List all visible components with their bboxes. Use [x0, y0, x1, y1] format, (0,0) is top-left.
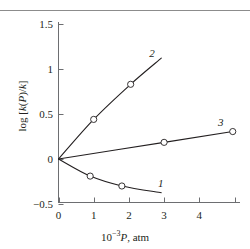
x-axis-title: 10−3P, atm: [0, 228, 250, 243]
data-point-marker: [119, 183, 125, 189]
curve-label-3: 3: [218, 117, 224, 128]
y-axis-title-open: (: [16, 103, 28, 107]
y-axis-title-prefix: log [: [16, 111, 28, 131]
y-tick-label: 1.5: [20, 19, 53, 30]
x-tick-label: 2: [117, 210, 141, 221]
x-axis-title-unit: , atm: [127, 231, 149, 243]
data-point-marker: [230, 128, 236, 134]
y-axis-title-k2: k: [16, 84, 28, 89]
x-tick-label: 0: [47, 210, 71, 221]
curve-3: [59, 132, 233, 159]
x-axis-ticks: [60, 198, 236, 203]
curve-1: [59, 159, 162, 193]
y-axis-title: log [k(P)/k]: [16, 36, 28, 176]
data-point-marker: [128, 81, 134, 87]
data-curves-group: [59, 58, 233, 193]
curve-2: [59, 58, 162, 159]
x-tick-label: 4: [187, 210, 211, 221]
x-tick-label: 3: [152, 210, 176, 221]
y-tick-label: −0.5: [20, 199, 53, 210]
curve-label-1: 1: [158, 178, 164, 189]
y-axis-title-close: )/: [16, 89, 28, 96]
data-point-marker: [87, 173, 93, 179]
figure-container: 1.510.50−0.5 01234 123 10−3P, atm log [k…: [0, 0, 250, 249]
y-axis-title-p: P: [16, 96, 28, 103]
y-axis-ticks: [59, 25, 64, 205]
y-axis-title-suffix: ]: [16, 80, 28, 84]
x-axis-title-prefix: 10: [101, 231, 112, 243]
data-point-marker: [161, 139, 167, 145]
data-point-marker: [91, 116, 97, 122]
y-axis-title-k1: k: [16, 106, 28, 111]
curve-label-2: 2: [149, 48, 155, 59]
data-markers-group: [87, 81, 236, 189]
x-tick-label: 1: [82, 210, 106, 221]
